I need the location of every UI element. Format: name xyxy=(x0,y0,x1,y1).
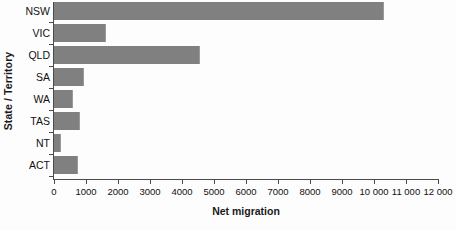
x-axis-tick-label: 12 000 xyxy=(423,186,452,197)
x-axis-tick xyxy=(54,180,55,184)
y-axis-tick-label: NSW xyxy=(26,2,51,20)
bar xyxy=(54,90,73,108)
x-axis-title: Net migration xyxy=(53,205,439,217)
x-axis-tick xyxy=(182,180,183,184)
x-axis-tick-label: 3000 xyxy=(139,186,160,197)
x-axis-tick-label: 2000 xyxy=(107,186,128,197)
bar-chart: State / Territory NSWVICQLDSAWATASNTACT … xyxy=(0,0,456,230)
x-axis-tick xyxy=(150,180,151,184)
y-axis-tick-labels: NSWVICQLDSAWATASNTACT xyxy=(14,2,52,178)
x-axis-tick-label: 6000 xyxy=(235,186,256,197)
bar xyxy=(54,134,61,152)
x-axis-tick-label: 5000 xyxy=(203,186,224,197)
y-axis-tick-label: NT xyxy=(36,134,50,152)
y-axis-tick xyxy=(49,132,53,133)
bar xyxy=(54,24,106,42)
bar xyxy=(54,112,80,130)
x-axis-tick xyxy=(406,180,407,184)
plot-area xyxy=(54,2,438,178)
y-axis-tick xyxy=(49,154,53,155)
y-axis-tick-label: VIC xyxy=(32,24,50,42)
bar xyxy=(54,156,78,174)
x-axis-tick xyxy=(246,180,247,184)
x-axis-tick-label: 7000 xyxy=(267,186,288,197)
x-axis-tick-label: 8000 xyxy=(299,186,320,197)
y-axis-title-text: State / Territory xyxy=(2,52,14,131)
y-axis-tick-label: SA xyxy=(36,68,50,86)
y-axis-tick xyxy=(49,88,53,89)
x-axis-tick xyxy=(310,180,311,184)
y-axis-tick-label: QLD xyxy=(28,46,50,64)
y-axis-tick xyxy=(49,22,53,23)
x-axis-tick-label: 0 xyxy=(51,186,56,197)
y-axis-tick-label: ACT xyxy=(29,156,50,174)
bar xyxy=(54,2,384,20)
y-axis-tick xyxy=(49,66,53,67)
x-axis-tick xyxy=(342,180,343,184)
x-axis-tick xyxy=(214,180,215,184)
bar xyxy=(54,46,200,64)
y-axis-tick xyxy=(49,44,53,45)
y-axis-tick xyxy=(49,176,53,177)
x-axis-tick xyxy=(278,180,279,184)
x-axis-tick xyxy=(118,180,119,184)
x-axis-tick xyxy=(374,180,375,184)
x-axis-tick-label: 11 000 xyxy=(392,186,420,197)
bar xyxy=(54,68,84,86)
x-axis-tick xyxy=(438,180,439,184)
x-axis-tick-label: 9000 xyxy=(331,186,352,197)
x-axis-tick-label: 1000 xyxy=(75,186,96,197)
y-axis-tick-label: WA xyxy=(33,90,50,108)
y-axis-tick-label: TAS xyxy=(30,112,50,130)
x-axis-tick xyxy=(86,180,87,184)
x-axis-tick-label: 10 000 xyxy=(359,186,388,197)
y-axis-tick xyxy=(49,110,53,111)
x-axis-tick-label: 4000 xyxy=(171,186,192,197)
